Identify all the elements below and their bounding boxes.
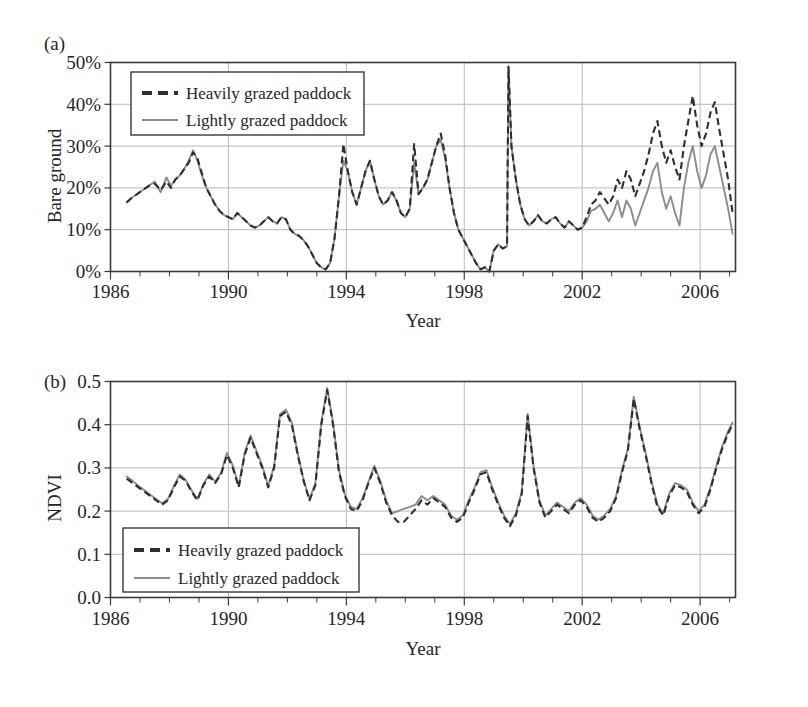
x-tick-label: 2002 bbox=[563, 608, 601, 629]
panel-b-x-axis-title: Year bbox=[405, 638, 441, 659]
x-tick-label: 1994 bbox=[327, 281, 366, 302]
panel-a-letter: (a) bbox=[44, 33, 65, 55]
x-tick-label: 1986 bbox=[92, 608, 130, 629]
y-tick-label: 0.3 bbox=[77, 457, 101, 478]
y-tick-label: 0.4 bbox=[77, 414, 101, 435]
panel-b-legend-heavy-label: Heavily grazed paddock bbox=[178, 541, 344, 560]
panel-b-legend-light-label: Lightly grazed paddock bbox=[178, 569, 340, 588]
x-tick-label: 1990 bbox=[209, 281, 247, 302]
x-tick-label: 2002 bbox=[563, 281, 601, 302]
y-tick-label: 30% bbox=[66, 136, 101, 157]
panel-a-legend-light-label: Lightly grazed paddock bbox=[186, 111, 348, 130]
x-tick-label: 1990 bbox=[209, 608, 247, 629]
y-tick-label: 50% bbox=[66, 52, 101, 73]
panel-a-legend-heavy-label: Heavily grazed paddock bbox=[186, 84, 352, 103]
y-tick-label: 0.5 bbox=[77, 371, 101, 392]
y-tick-label: 0.2 bbox=[77, 501, 101, 522]
panel-b-y-axis-title: NDVI bbox=[44, 474, 65, 522]
x-tick-label: 1986 bbox=[92, 281, 130, 302]
y-tick-label: 0% bbox=[76, 261, 102, 282]
panel-a-legend: Heavily grazed paddock Lightly grazed pa… bbox=[131, 72, 364, 135]
y-tick-label: 0.0 bbox=[77, 587, 101, 608]
y-tick-label: 40% bbox=[66, 94, 101, 115]
y-tick-label: 0.1 bbox=[77, 544, 101, 565]
y-tick-label: 20% bbox=[66, 177, 101, 198]
panel-b-letter: (b) bbox=[44, 371, 66, 393]
x-tick-label: 2006 bbox=[681, 281, 719, 302]
panel-a-y-axis-title: Bare ground bbox=[44, 128, 65, 223]
y-tick-label: 10% bbox=[66, 219, 101, 240]
figure-background bbox=[0, 0, 808, 707]
x-tick-label: 2006 bbox=[681, 608, 719, 629]
x-tick-label: 1998 bbox=[445, 608, 483, 629]
figure-root: (a) 0%10%20%30%40%50% 198619901994199820… bbox=[0, 0, 808, 707]
x-tick-label: 1998 bbox=[445, 281, 483, 302]
x-tick-label: 1994 bbox=[327, 608, 366, 629]
panel-a-x-axis-title: Year bbox=[405, 310, 441, 331]
panel-b-legend: Heavily grazed paddock Lightly grazed pa… bbox=[123, 528, 359, 592]
